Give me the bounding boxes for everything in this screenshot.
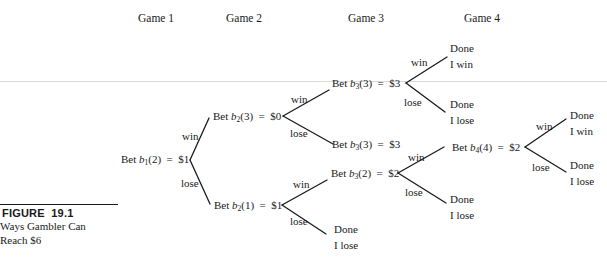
label-win-b3-3: win [411,56,428,69]
node-bet-b2-3: Bet b2(3) = $0 [213,110,281,123]
label-win-b4: win [536,120,553,133]
outcome-b2-1-lose: Done I lose [334,223,358,252]
node-bet-b3-3-mid: Bet b3(3) = $3 [332,138,400,151]
outcome-top-lose: Done I lose [450,98,474,127]
outcome-b4-lose: Done I lose [570,159,594,188]
label-lose-b1: lose [181,177,199,190]
outcome-top-win: Done I win [450,42,474,71]
label-lose-b2-1: lose [290,215,308,228]
label-lose-b3-2: lose [405,186,423,199]
label-lose-b4: lose [532,161,550,174]
header-game-2: Game 2 [226,12,262,25]
header-game-1: Game 1 [138,12,174,25]
header-game-3: Game 3 [348,12,384,25]
label-lose-b2-3: lose [290,127,308,140]
node-bet-b3-3-top: Bet b3(3) = $3 [332,77,400,90]
figure-number: FIGURE 19.1 [2,207,73,219]
gambler-decision-tree: Game 1 Game 2 Game 3 Game 4 Bet b1(2) = … [0,0,607,257]
node-bet-b4-4: Bet b4(4) = $2 [452,141,520,154]
label-win-b1: win [182,130,199,143]
label-lose-b3-3: lose [404,96,422,109]
header-game-4: Game 4 [464,12,500,25]
node-bet-b3-2: Bet b3(2) = $2 [331,167,399,180]
caption-line-1: Ways Gambler Can [0,220,86,233]
caption-line-2: Reach $6 [0,234,41,247]
node-bet-b1-2: Bet b1(2) = $1 [121,153,189,166]
label-win-b2-3: win [291,93,308,106]
node-bet-b2-1: Bet b2(1) = $1 [214,199,282,212]
outcome-b4-win: Done I win [570,109,594,138]
label-win-b3-2: win [408,151,425,164]
caption-rule [0,204,118,205]
label-win-b2-1: win [293,178,310,191]
outcome-b3-2-lose: Done I lose [450,193,474,222]
